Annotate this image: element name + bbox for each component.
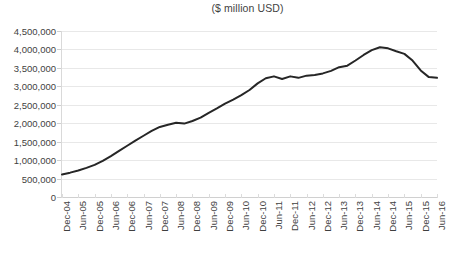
x-tick-mark (225, 194, 226, 198)
x-tick-mark (209, 194, 210, 198)
y-tick-label: 0 (51, 192, 56, 203)
x-tick-label: Dec-12 (323, 201, 333, 232)
x-tick-label: Jun-16 (437, 201, 447, 230)
x-tick-label: Dec-05 (95, 201, 105, 232)
x-tick-mark (421, 194, 422, 198)
y-axis: 4,500,0004,000,0003,500,0003,000,0002,50… (0, 31, 56, 197)
x-tick-label: Jun-15 (404, 201, 414, 230)
y-tick-label: 3,000,000 (14, 81, 56, 92)
x-tick-label: Jun-09 (209, 201, 219, 230)
x-tick-label: Jun-07 (144, 201, 154, 230)
series-line (62, 47, 437, 174)
y-tick-label: 4,500,000 (14, 26, 56, 37)
x-tick-mark (241, 194, 242, 198)
x-tick-mark (290, 194, 291, 198)
x-tick-label: Dec-08 (192, 201, 202, 232)
x-tick-label: Dec-14 (388, 201, 398, 232)
x-tick-label: Dec-09 (225, 201, 235, 232)
x-tick-label: Dec-15 (421, 201, 431, 232)
x-tick-mark (388, 194, 389, 198)
x-tick-label: Jun-05 (78, 201, 88, 230)
x-tick-mark (111, 194, 112, 198)
y-tick-label: 2,500,000 (14, 99, 56, 110)
x-tick-mark (339, 194, 340, 198)
x-tick-mark (274, 194, 275, 198)
x-tick-mark (78, 194, 79, 198)
x-tick-mark (355, 194, 356, 198)
x-tick-mark (437, 194, 438, 198)
x-tick-label: Dec-13 (355, 201, 365, 232)
y-tick-label: 1,000,000 (14, 155, 56, 166)
x-tick-mark (160, 194, 161, 198)
plot-area (62, 31, 437, 197)
x-tick-label: Jun-06 (111, 201, 121, 230)
x-tick-label: Jun-08 (176, 201, 186, 230)
x-tick-label: Jun-12 (307, 201, 317, 230)
y-tick-label: 500,000 (22, 173, 56, 184)
x-tick-label: Dec-07 (160, 201, 170, 232)
y-tick-label: 2,000,000 (14, 118, 56, 129)
x-tick-label: Jun-11 (274, 201, 284, 229)
x-tick-label: Jun-14 (372, 201, 382, 230)
chart-container: ($ million USD) 4,500,0004,000,0003,500,… (0, 0, 450, 256)
x-tick-label: Jun-13 (339, 201, 349, 230)
x-tick-mark (323, 194, 324, 198)
x-tick-mark (307, 194, 308, 198)
x-tick-mark (192, 194, 193, 198)
x-tick-label: Dec-10 (258, 201, 268, 232)
x-tick-label: Dec-04 (62, 201, 72, 232)
x-tick-label: Dec-06 (127, 201, 137, 232)
x-axis-line (62, 197, 437, 198)
x-axis: Dec-04Jun-05Dec-05Jun-06Dec-06Jun-07Dec-… (62, 199, 437, 255)
x-tick-mark (372, 194, 373, 198)
chart-title: ($ million USD) (0, 2, 450, 14)
x-tick-mark (404, 194, 405, 198)
x-tick-label: Jun-10 (241, 201, 251, 230)
x-tick-mark (127, 194, 128, 198)
y-tick-label: 4,000,000 (14, 44, 56, 55)
x-tick-mark (176, 194, 177, 198)
x-tick-label: Dec-11 (290, 201, 300, 231)
x-tick-mark (258, 194, 259, 198)
series-line-chart (62, 31, 437, 197)
y-tick-label: 1,500,000 (14, 136, 56, 147)
y-tick-label: 3,500,000 (14, 62, 56, 73)
x-tick-mark (95, 194, 96, 198)
x-tick-mark (62, 194, 63, 198)
x-tick-mark (144, 194, 145, 198)
